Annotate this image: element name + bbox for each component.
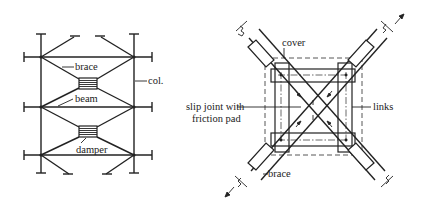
label-links: links	[373, 101, 393, 112]
brace-sleeve-lower-right	[348, 143, 393, 187]
label-damper: damper	[76, 144, 108, 155]
damper-lower	[79, 126, 97, 137]
diagram-canvas: brace beam damper col.	[0, 0, 423, 204]
link-horizontal-top	[271, 69, 355, 82]
beam-leader	[58, 99, 73, 106]
braced-frame-diagram: brace beam damper col.	[24, 34, 163, 174]
link-vertical-left	[275, 63, 289, 152]
friction-damper-detail: cover slip joint with friction pad links…	[186, 14, 404, 197]
label-beam: beam	[75, 93, 98, 104]
brace-partial-top	[41, 36, 134, 57]
load-arrow-upper-right	[395, 14, 404, 24]
brace-sleeve-upper-right	[348, 21, 393, 67]
damper-leader	[81, 138, 86, 143]
label-brace-right: brace	[268, 168, 291, 179]
damper-upper	[79, 78, 97, 89]
brace-sleeve-lower-left	[235, 143, 274, 187]
link-vertical-right	[338, 63, 352, 152]
brace-sleeve-upper-left	[236, 21, 274, 67]
label-slip-joint-line1: slip joint with	[186, 101, 245, 112]
label-cover: cover	[282, 37, 306, 48]
load-arrow-lower-left	[225, 187, 234, 197]
label-slip-joint-line2: friction pad	[192, 113, 241, 124]
label-column: col.	[148, 75, 163, 86]
label-brace: brace	[75, 61, 98, 72]
brace-partial-bottom	[41, 155, 134, 174]
